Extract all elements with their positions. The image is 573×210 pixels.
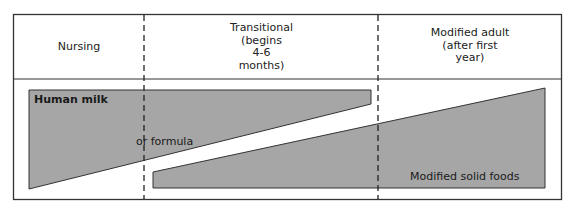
- stage-label-line: year): [379, 52, 561, 65]
- solid-foods-label: Modified solid foods: [410, 170, 520, 183]
- stage-label-line: months): [145, 60, 378, 73]
- stage-header-nursing: Nursing: [14, 41, 144, 54]
- human-milk-label: Human milk: [34, 93, 108, 106]
- stage-header-transitional: Transitional (begins 4-6 months): [145, 22, 378, 72]
- stage-label-line: Transitional: [145, 22, 378, 35]
- stage-label-line: Modified adult: [379, 27, 561, 40]
- stage-label: Nursing: [58, 40, 100, 53]
- stage-label-line: 4-6: [145, 47, 378, 60]
- stage-header-modified-adult: Modified adult (after first year): [379, 27, 561, 65]
- formula-label: or formula: [136, 135, 193, 148]
